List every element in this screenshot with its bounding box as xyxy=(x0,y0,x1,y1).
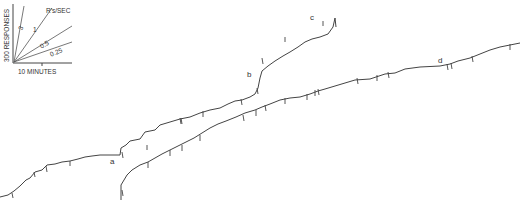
legend-xlabel: 10 MINUTES xyxy=(18,68,57,75)
rate-legend-key: 300 RESPONSES 10 MINUTES R's/SEC 3 1 0.5… xyxy=(3,4,72,75)
segment-label-d: d xyxy=(438,56,442,65)
legend-rate-0.25: 0.25 xyxy=(49,46,64,57)
segment-label-c: c xyxy=(310,13,314,22)
legend-rate-unit: R's/SEC xyxy=(46,7,71,14)
cumulative-record-chart: 300 RESPONSES 10 MINUTES R's/SEC 3 1 0.5… xyxy=(0,0,527,217)
upper-record-curve xyxy=(0,18,336,197)
legend-rate-1: 1 xyxy=(33,26,37,33)
legend-ylabel: 300 RESPONSES xyxy=(3,8,10,62)
reinforcement-marks xyxy=(12,21,510,198)
segment-label-b: b xyxy=(247,70,252,79)
segment-label-a: a xyxy=(110,157,115,166)
